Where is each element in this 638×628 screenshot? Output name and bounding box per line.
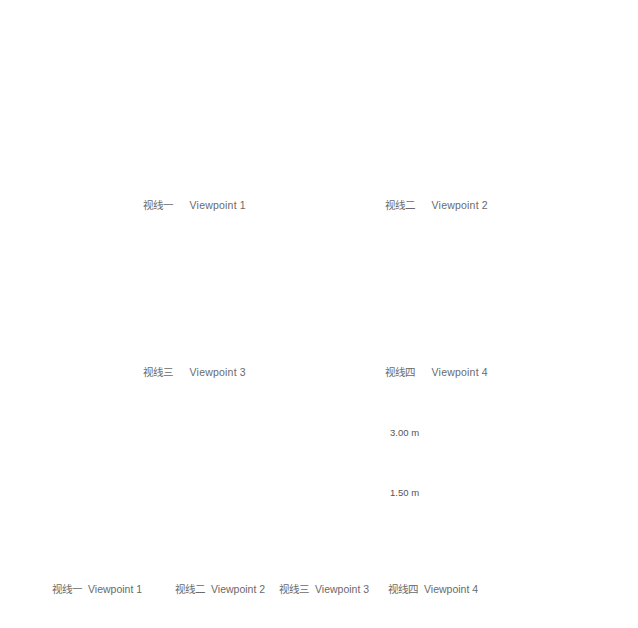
level-label-1-5m: 1.50 m — [390, 487, 419, 498]
viewpoint-4-label-en: Viewpoint 4 — [432, 366, 488, 378]
section-label-3-zh: 视线三 — [279, 583, 309, 595]
section-label-2-en: Viewpoint 2 — [211, 583, 265, 595]
viewpoint-3-caption: 视线三Viewpoint 3 — [143, 364, 246, 379]
section-label-4-en: Viewpoint 4 — [424, 583, 478, 595]
viewpoint-1-label-zh: 视线一 — [143, 199, 174, 211]
tree-group-left — [33, 403, 237, 575]
section-label-viewpoint-4: 视线四Viewpoint 4 — [388, 581, 478, 596]
viewpoint-4-caption: 视线四Viewpoint 4 — [385, 364, 488, 379]
viewpoint-2-caption: 视线二Viewpoint 2 — [385, 197, 488, 212]
viewpoint-3-label-en: Viewpoint 3 — [190, 366, 246, 378]
section-label-1-zh: 视线一 — [52, 583, 82, 595]
section-label-viewpoint-1: 视线一Viewpoint 1 — [52, 581, 142, 596]
viewpoint-4-label-zh: 视线四 — [385, 366, 416, 378]
section-label-1-en: Viewpoint 1 — [88, 583, 142, 595]
viewpoint-1-label-en: Viewpoint 1 — [190, 199, 246, 211]
section-label-2-zh: 视线二 — [175, 583, 205, 595]
viewpoint-2-label-zh: 视线二 — [385, 199, 416, 211]
section-label-viewpoint-3: 视线三Viewpoint 3 — [279, 581, 369, 596]
viewpoint-3-label-zh: 视线三 — [143, 366, 174, 378]
section-label-viewpoint-2: 视线二Viewpoint 2 — [175, 581, 265, 596]
viewpoint-2-label-en: Viewpoint 2 — [432, 199, 488, 211]
section-label-3-en: Viewpoint 3 — [315, 583, 369, 595]
section-label-4-zh: 视线四 — [388, 583, 418, 595]
viewpoint-1-caption: 视线一Viewpoint 1 — [143, 197, 246, 212]
level-label-3m: 3.00 m — [390, 427, 419, 438]
